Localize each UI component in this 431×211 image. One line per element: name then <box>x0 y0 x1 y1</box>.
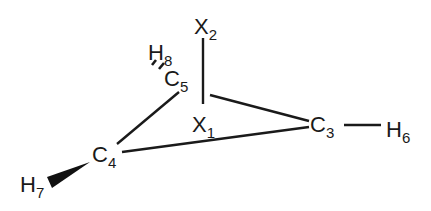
atom-h6: H6 <box>386 117 410 146</box>
atom-labels: X2 H8 C5 X1 C3 H6 C4 H7 <box>20 14 410 201</box>
atom-c5: C5 <box>164 66 188 95</box>
atom-x1: X1 <box>192 112 215 141</box>
atom-x2: X2 <box>194 14 217 43</box>
wedge-bond-c4-h7 <box>47 162 90 188</box>
bond-c5-c4 <box>117 92 179 144</box>
atom-h7: H7 <box>20 172 44 201</box>
atom-h8: H8 <box>148 40 172 69</box>
atom-c3: C3 <box>310 112 334 141</box>
bond-c4-c3 <box>122 127 309 152</box>
bond-axis-c3 <box>210 95 309 121</box>
molecular-structure-diagram: X2 H8 C5 X1 C3 H6 C4 H7 <box>0 0 431 211</box>
atom-c4: C4 <box>92 142 116 171</box>
